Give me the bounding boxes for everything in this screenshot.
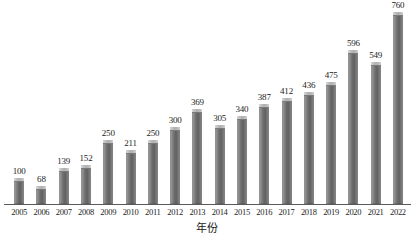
bar-group: 139 xyxy=(53,0,75,204)
x-tick-label: 2017 xyxy=(275,207,297,218)
bar[interactable] xyxy=(326,82,336,205)
x-tick-label: 2010 xyxy=(119,207,141,218)
bar-group: 340 xyxy=(231,0,253,204)
plot-area: 1006813915225021125030036930534038741243… xyxy=(0,0,413,206)
bar[interactable] xyxy=(103,140,113,204)
bar-group: 300 xyxy=(164,0,186,204)
bar-group: 436 xyxy=(298,0,320,204)
bar[interactable] xyxy=(126,150,136,204)
bar[interactable] xyxy=(192,109,202,204)
x-tick-label: 2014 xyxy=(209,207,231,218)
bar-value-label: 549 xyxy=(369,50,382,60)
bar-group: 596 xyxy=(342,0,364,204)
x-axis-tick-labels: 2005200620072008200920102011201220132014… xyxy=(8,207,409,218)
bar[interactable] xyxy=(81,165,91,204)
bar-group: 412 xyxy=(275,0,297,204)
x-axis-title: 年份 xyxy=(0,222,413,236)
bar-group: 475 xyxy=(320,0,342,204)
bar[interactable] xyxy=(59,168,69,204)
bar-group: 152 xyxy=(75,0,97,204)
bar-group: 369 xyxy=(186,0,208,204)
x-tick-label: 2005 xyxy=(8,207,30,218)
bar-group: 250 xyxy=(142,0,164,204)
bar[interactable] xyxy=(282,98,292,204)
x-tick-label: 2007 xyxy=(53,207,75,218)
x-tick-label: 2008 xyxy=(75,207,97,218)
bar-value-label: 211 xyxy=(124,138,137,148)
bars-container: 1006813915225021125030036930534038741243… xyxy=(8,0,409,204)
bar-value-label: 387 xyxy=(258,92,271,102)
bar[interactable] xyxy=(170,127,180,204)
bar[interactable] xyxy=(36,186,46,204)
bar-group: 250 xyxy=(97,0,119,204)
bar-group: 387 xyxy=(253,0,275,204)
bar-value-label: 300 xyxy=(169,115,182,125)
bar[interactable] xyxy=(259,104,269,204)
x-tick-label: 2020 xyxy=(342,207,364,218)
bar[interactable] xyxy=(348,50,358,204)
bar-value-label: 68 xyxy=(37,174,46,184)
x-tick-label: 2016 xyxy=(253,207,275,218)
bar[interactable] xyxy=(148,140,158,204)
bar[interactable] xyxy=(237,116,247,204)
x-tick-label: 2012 xyxy=(164,207,186,218)
bar-value-label: 475 xyxy=(325,70,338,80)
bar-value-label: 139 xyxy=(57,156,70,166)
x-tick-label: 2019 xyxy=(320,207,342,218)
bar-value-label: 436 xyxy=(302,80,315,90)
bar-value-label: 250 xyxy=(146,128,159,138)
x-tick-label: 2022 xyxy=(387,207,409,218)
bar[interactable] xyxy=(14,178,24,204)
bar[interactable] xyxy=(304,92,314,204)
bar-group: 760 xyxy=(387,0,409,204)
bar-value-label: 305 xyxy=(213,113,226,123)
x-tick-label: 2013 xyxy=(186,207,208,218)
bar-value-label: 412 xyxy=(280,86,293,96)
bar[interactable] xyxy=(393,12,403,204)
x-tick-label: 2021 xyxy=(365,207,387,218)
bar-value-label: 340 xyxy=(236,104,249,114)
bar-group: 100 xyxy=(8,0,30,204)
x-tick-label: 2009 xyxy=(97,207,119,218)
bar-chart: 1006813915225021125030036930534038741243… xyxy=(0,0,413,243)
bar-value-label: 100 xyxy=(13,166,26,176)
x-tick-label: 2011 xyxy=(142,207,164,218)
bar-value-label: 760 xyxy=(391,0,404,10)
bar-value-label: 152 xyxy=(80,153,93,163)
x-tick-label: 2015 xyxy=(231,207,253,218)
x-tick-label: 2018 xyxy=(298,207,320,218)
bar[interactable] xyxy=(371,62,381,204)
bar-value-label: 369 xyxy=(191,97,204,107)
bar-group: 68 xyxy=(30,0,52,204)
bar-group: 305 xyxy=(209,0,231,204)
bar-group: 211 xyxy=(119,0,141,204)
x-axis-line xyxy=(4,204,411,205)
bar-value-label: 596 xyxy=(347,38,360,48)
x-tick-label: 2006 xyxy=(30,207,52,218)
bar[interactable] xyxy=(215,125,225,204)
bar-group: 549 xyxy=(365,0,387,204)
bar-value-label: 250 xyxy=(102,128,115,138)
